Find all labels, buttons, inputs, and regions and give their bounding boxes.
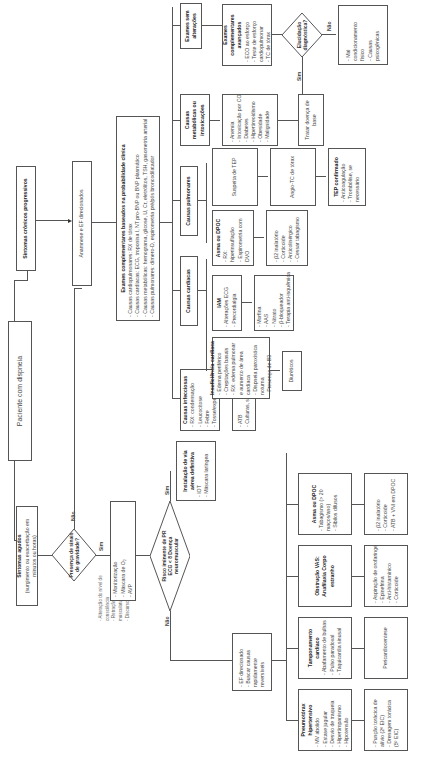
connector [352, 720, 364, 721]
decision-no-label: Não [326, 22, 332, 31]
no-diagnosis-item: - Mal condicionamento físico [345, 9, 366, 61]
imminent-risk-question: Risco iminente de PR ECG < 8 Doença neur… [161, 526, 180, 586]
connector [14, 281, 15, 321]
treatment-item: - β2 inalatório [375, 477, 382, 531]
connector [352, 648, 364, 649]
monitoring-box: - Monitorização - Máscara de O₂ - AVP [110, 501, 136, 601]
tep-suspicion-label: Suspeita de TEP [231, 158, 238, 197]
treatment-item: - Morfina [256, 279, 263, 327]
advanced-item: - TC de tórax [265, 8, 272, 62]
connector [286, 453, 287, 721]
no-diagnosis-box: - Mal condicionamento físico - Causas ps… [338, 5, 388, 65]
connector [74, 289, 75, 529]
acute-asthma-item: - Tabagismo (> 20 maços/ano) [318, 477, 332, 531]
treatment-item: - Corticoide [280, 214, 287, 262]
treat-underlying-label: Tratar doença de base [304, 98, 318, 142]
iam-item: - Alterações ECG [223, 279, 230, 327]
tamponade-item: - Pulso paradoxal [329, 621, 336, 675]
start-label: Paciente com dispneia [15, 356, 24, 426]
diagnosis-decision: Elucidação diagnóstica? [282, 13, 322, 57]
advanced-item: - ECO ao esforço [244, 8, 251, 62]
metabolic-item: - Hipertireoidismo [250, 98, 257, 142]
metabolic-item: - Anemia [229, 98, 236, 142]
tamponade-title: Tamponamento cardíaco [307, 621, 321, 675]
connector [206, 163, 207, 243]
tep-confirmed-box: TEP confirmado - Anticoagulação - Trombó… [328, 148, 366, 206]
connector [206, 259, 207, 371]
directed-item: - EF direcionado [238, 637, 245, 687]
asthma-dpoc-box: Asma ou DPOC - RX: hiperinsuflação - Esp… [212, 210, 254, 266]
obstruction-box: Obstrução VAS: Anafilaxia Corpo estranho [298, 545, 352, 607]
tep-suspicion-box: Suspeita de TEP [212, 148, 258, 206]
complementary-exams-box: Exames complementares baseados na probab… [116, 116, 160, 321]
airway-box: Instalação de via aérea definitiva - IOT… [176, 441, 216, 501]
connector [172, 7, 173, 399]
exam-item: - Causas metabólicas: hemograma, glicose… [142, 120, 149, 317]
connector [352, 576, 364, 577]
iam-box: IAM - Alterações ECG - Precordialgia [212, 275, 242, 331]
metabolic-item: - Malignidade [264, 98, 271, 142]
tamponade-item: - Taquicardia sinusal [336, 621, 343, 675]
metabolic-item: - Obesidade [257, 98, 264, 142]
pulmonary-title: Causas pulmonares [185, 176, 192, 225]
imminent-risk-decision: Risco iminente de PR ECG < 8 Doença neur… [150, 501, 190, 611]
monitoring-item: - Máscara de O₂ [120, 505, 127, 597]
iam-item: - Precordialgia [231, 279, 238, 327]
metabolic-causes-box: Causas metabólicas ou intoxicações [180, 94, 210, 146]
connector [172, 398, 180, 399]
hf-item: - RX: edema pulmonar e aumento de área c… [230, 341, 251, 395]
pericardiocentesis-label: Pericardiocentese [382, 627, 389, 669]
normal-exams-box: Exames sem alterações [180, 3, 202, 49]
connector [286, 720, 298, 721]
connector [136, 555, 150, 556]
connector [278, 120, 298, 121]
chronic-symptoms-label: Sintomas crônicos progressivos [22, 178, 29, 258]
iam-treatment-box: - Morfina - AAS - Nitrato - β-bloqueador… [254, 275, 294, 331]
connector [202, 25, 222, 26]
connector [272, 660, 286, 661]
directed-item: - Buscar causas rapidamente reversíveis [245, 637, 266, 687]
treatment-item: - β2 inalatório [273, 214, 280, 262]
diuretics-label: Diuréticos [288, 359, 295, 382]
connector [286, 648, 298, 649]
connector [170, 611, 171, 661]
tep-item: - Trombólise, se necessário [347, 152, 361, 202]
severity-decision: Presença de sinais de gravidade? [52, 529, 96, 581]
connector [92, 222, 116, 223]
treat-underlying-box: Tratar doença de base [298, 94, 324, 146]
treatment-item: - Anticolinérgico [287, 214, 294, 262]
anamnesis-label: Anamnese e EF direcionados [78, 189, 85, 257]
heart-failure-box: Insuficiência cardíaca - Edema periféric… [212, 337, 270, 399]
acute-asthma-treatment-box: - β2 inalatório - Corticoide - ATB + VNI… [364, 473, 408, 535]
directed-exam-box: - EF direcionado - Buscar causas rapidam… [232, 633, 272, 691]
treatment-item: - Epinefrina [379, 549, 386, 603]
pneumothorax-treatment-box: - Punção torácica de alívio (2º EIC) - D… [364, 689, 408, 751]
pericardiocentesis-box: Pericardiocentese [364, 617, 408, 679]
connector [172, 25, 180, 26]
connector [198, 200, 206, 201]
exam-item: - Causas cardíacas: ECG, troponina I, NT… [134, 120, 141, 317]
acute-subtitle: (surgimento ou exacerbação em minutos ou… [24, 510, 38, 602]
connector [160, 222, 172, 223]
obstruction-treatment-box: - Aspiração de orofaringe - Epinefrina -… [364, 545, 408, 607]
pneumothorax-item: - Desvio de traqueia [329, 693, 336, 747]
acute-asthma-title: Asma ou DPOC [311, 477, 318, 531]
pneumothorax-box: Pneumotórax hipertensivo - MV abolido - … [298, 689, 352, 751]
airway-item: - IOT [196, 445, 203, 497]
monitoring-item: - Monitorização [112, 505, 119, 597]
chronic-symptoms-box: Sintomas crônicos progressivos [16, 166, 36, 271]
acute-symptoms-box: Sintomas agudos (surgimento ou exacerbaç… [16, 506, 38, 606]
metabolic-title: Causas metabólicas ou intoxicações [184, 98, 205, 142]
diagnosis-question: Elucidação diagnóstica? [296, 13, 309, 57]
treatment-item: - AAS [263, 279, 270, 327]
asthma-treatment-box: - β2 inalatório - Corticoide - Anticolin… [266, 210, 308, 266]
treatment-item: - β-bloqueador [278, 279, 285, 327]
normal-exams-title: Exames sem alterações [184, 7, 198, 45]
asthma-item: - RX: hiperinsuflação [222, 214, 236, 262]
pneumothorax-title: Pneumotórax hipertensivo [300, 693, 314, 747]
diuretics-box: Diuréticos [282, 351, 302, 391]
advanced-exams-box: Exames complementares avançados - ECO ao… [222, 4, 272, 66]
anamnesis-box: Anamnese e EF direcionados [72, 161, 92, 286]
treatment-item: - ATB + VNI em DPOC [390, 477, 397, 531]
hf-item: - Crepitações basais [223, 341, 230, 395]
